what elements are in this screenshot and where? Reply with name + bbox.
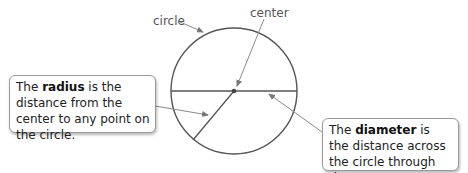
center-point <box>232 89 237 94</box>
radius-callout: The radius is the distance from the cent… <box>9 75 156 133</box>
center-label: center <box>250 6 289 20</box>
radius-pointer-arrow <box>155 106 208 115</box>
radius-term: radius <box>42 80 84 94</box>
radius-callout-prefix: The <box>16 80 42 94</box>
diameter-pointer-arrow <box>269 94 322 132</box>
diameter-callout: The diameter is the distance across the … <box>322 118 459 171</box>
diameter-term: diameter <box>355 123 416 137</box>
diameter-callout-prefix: The <box>329 123 355 137</box>
circle-label: circle <box>153 14 185 28</box>
radius-line <box>193 91 234 140</box>
